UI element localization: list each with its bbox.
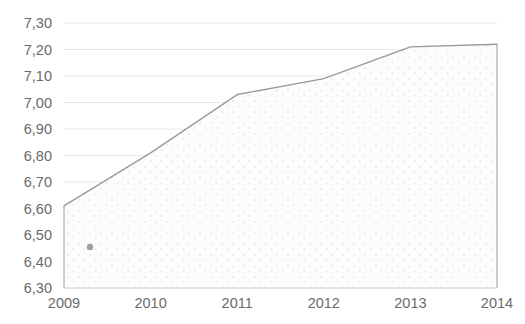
y-tick-label-9: 7,20 — [24, 42, 52, 58]
x-tick-label-4: 2013 — [394, 295, 426, 311]
x-tick-label-2: 2011 — [222, 295, 253, 311]
y-tick-label-10: 7,30 — [24, 15, 52, 31]
y-axis-tick-labels: 6,306,406,506,606,706,806,907,007,107,20… — [24, 15, 52, 296]
x-tick-label-5: 2014 — [481, 295, 513, 311]
x-tick-label-0: 2009 — [48, 295, 80, 311]
y-tick-label-4: 6,70 — [24, 174, 52, 190]
y-tick-label-0: 6,30 — [24, 280, 52, 296]
y-tick-label-1: 6,40 — [24, 254, 52, 270]
y-tick-label-8: 7,10 — [24, 68, 52, 84]
y-tick-label-2: 6,50 — [24, 227, 52, 243]
annotation-group — [87, 244, 93, 250]
x-tick-label-1: 2010 — [134, 295, 166, 311]
x-tick-label-3: 2012 — [308, 295, 340, 311]
y-tick-label-6: 6,90 — [24, 121, 52, 137]
y-tick-label-5: 6,80 — [24, 148, 52, 164]
chart-canvas: 6,306,406,506,606,706,806,907,007,107,20… — [0, 0, 525, 324]
area-chart-figure: 6,306,406,506,606,706,806,907,007,107,20… — [0, 0, 525, 324]
stray-dot-marker — [87, 244, 93, 250]
y-tick-label-3: 6,60 — [24, 201, 52, 217]
y-tick-label-7: 7,00 — [24, 95, 52, 111]
